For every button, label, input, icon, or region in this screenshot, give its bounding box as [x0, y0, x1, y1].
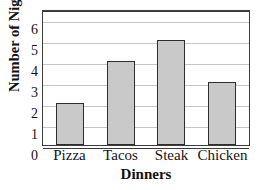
- y-axis-title: Number of Nights: [6, 0, 23, 99]
- x-axis-tick-labels: PizzaTacosSteakChicken: [42, 147, 250, 164]
- x-axis-title: Dinners: [42, 166, 250, 183]
- bar-slot-pizza: [45, 12, 96, 145]
- y-axis-tick-labels: 0123456: [22, 10, 38, 146]
- y-tick-label-5: 5: [22, 44, 38, 58]
- y-tick-label-3: 3: [22, 86, 38, 100]
- x-tick-label-steak: Steak: [146, 147, 197, 164]
- plot-area: [42, 10, 250, 146]
- bar-steak[interactable]: [157, 40, 185, 145]
- bar-tacos[interactable]: [107, 61, 135, 145]
- chart-title: JASON'S DINNERS: [42, 0, 251, 2]
- bar-slot-chicken: [197, 12, 248, 145]
- y-tick-label-6: 6: [22, 23, 38, 37]
- bar-chicken[interactable]: [208, 82, 236, 145]
- bar-slot-tacos: [96, 12, 147, 145]
- x-tick-label-pizza: Pizza: [44, 147, 95, 164]
- bar-slot-steak: [146, 12, 197, 145]
- bar-chart-figure: JASON'S DINNERS Number of Nights 0123456…: [0, 0, 261, 190]
- y-tick-label-0: 0: [22, 149, 38, 163]
- y-tick-label-4: 4: [22, 65, 38, 79]
- y-tick-label-2: 2: [22, 107, 38, 121]
- bar-pizza[interactable]: [56, 103, 84, 145]
- y-tick-label-1: 1: [22, 128, 38, 142]
- bars-layer: [43, 12, 249, 145]
- x-tick-label-tacos: Tacos: [95, 147, 146, 164]
- x-tick-label-chicken: Chicken: [197, 147, 248, 164]
